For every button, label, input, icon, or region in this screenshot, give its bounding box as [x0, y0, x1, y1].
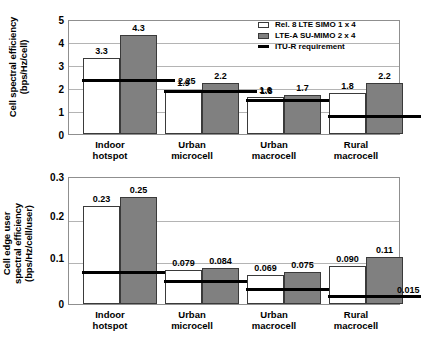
- itu-r-requirement-line: [328, 115, 421, 118]
- x-category-label-urban-macrocell: Urban macrocell: [236, 139, 312, 161]
- bar-rel8: [165, 270, 202, 304]
- bar-value-label: 0.23: [74, 195, 129, 204]
- x-category-label-rural-macrocell: Rural macrocell: [318, 309, 394, 331]
- bar-group-urban-microcell: 0.079 0.084 0.05: [165, 178, 241, 304]
- itu-r-requirement-line: [328, 295, 421, 298]
- y-tick-label: 2: [38, 85, 64, 95]
- bar-rel8: [247, 97, 284, 134]
- bar-rel8: [329, 266, 366, 304]
- x-category-label-urban-microcell: Urban microcell: [154, 139, 230, 161]
- bar-value-label: 4.3: [111, 24, 166, 33]
- y-tick-label: 3: [38, 62, 64, 72]
- bar-value-label: 1.8: [320, 82, 375, 91]
- bar-group-rural-macrocell: 0.090 0.11 0.015: [329, 178, 405, 304]
- itu-r-requirement-label: 0.015: [397, 286, 420, 295]
- itu-r-requirement-line: [82, 271, 175, 274]
- legend-label: LTE-A SU-MIMO 2 x 4: [275, 30, 355, 41]
- black-line-swatch-icon: [258, 45, 269, 48]
- bar-value-label: 3.3: [74, 47, 129, 56]
- y-tick-label: 0.1: [34, 254, 64, 264]
- y-tick-label: 4: [38, 39, 64, 49]
- y-axis-title: Cell spectral efficiency (bps/Hz/cell): [7, 12, 29, 122]
- legend: Rel. 8 LTE SIMO 1 x 4 LTE-A SU-MIMO 2 x …: [258, 19, 356, 52]
- bar-ltea: [202, 268, 239, 304]
- legend-label: Rel. 8 LTE SIMO 1 x 4: [275, 19, 356, 30]
- bar-value-label: 0.090: [320, 255, 375, 264]
- x-category-label-urban-microcell: Urban microcell: [154, 309, 230, 331]
- bar-group-urban-microcell: 1.9 2.2 1.8: [165, 21, 241, 134]
- y-tick-label: 0: [34, 300, 64, 310]
- itu-r-requirement-line: [164, 280, 257, 283]
- bar-rel8: [83, 58, 120, 134]
- bar-group-indoor-hotspot: 3.3 4.3 2.25: [83, 21, 159, 134]
- bar-rel8: [165, 90, 202, 134]
- y-axis-title: Cell edge user spectral efficiency (bps/…: [1, 184, 34, 304]
- bar-group-urban-macrocell: 0.069 0.075 0.03: [247, 178, 323, 304]
- bar-value-label: 2.2: [357, 72, 412, 81]
- x-category-label-indoor-hotspot: Indoor hotspot: [72, 309, 148, 331]
- itu-r-requirement-line: [246, 99, 339, 102]
- legend-item-ltea: LTE-A SU-MIMO 2 x 4: [258, 30, 356, 41]
- bar-ltea: [120, 197, 157, 304]
- legend-item-itur: ITU-R requirement: [258, 41, 356, 52]
- y-tick-label: 1: [38, 108, 64, 118]
- bar-group-indoor-hotspot: 0.23 0.25 0.07: [83, 178, 159, 304]
- x-category-label-rural-macrocell: Rural macrocell: [318, 139, 394, 161]
- cell-spectral-efficiency-chart: Cell spectral efficiency (bps/Hz/cell) 5…: [0, 0, 423, 172]
- x-category-label-urban-macrocell: Urban macrocell: [236, 309, 312, 331]
- cell-edge-user-spectral-efficiency-chart: Cell edge user spectral efficiency (bps/…: [0, 172, 423, 346]
- bar-value-label: 0.25: [111, 186, 166, 195]
- itu-r-requirement-line: [246, 288, 339, 291]
- dark-bar-swatch-icon: [258, 33, 269, 39]
- legend-label: ITU-R requirement: [275, 41, 345, 52]
- bar-value-label: 2.2: [193, 72, 248, 81]
- legend-item-rel8: Rel. 8 LTE SIMO 1 x 4: [258, 19, 356, 30]
- light-bar-swatch-icon: [258, 22, 269, 28]
- bar-rel8: [329, 93, 366, 134]
- bar-rel8: [83, 206, 120, 304]
- x-category-label-indoor-hotspot: Indoor hotspot: [72, 139, 148, 161]
- y-tick-label: 0: [38, 131, 64, 141]
- plot-area: 0.23 0.25 0.07 0.079 0.084 0.05 0.069 0.…: [68, 177, 400, 305]
- y-tick-label: 0.3: [34, 173, 64, 183]
- y-tick-label: 0.2: [34, 212, 64, 222]
- bar-value-label: 0.11: [357, 246, 412, 255]
- y-tick-label: 5: [38, 16, 64, 26]
